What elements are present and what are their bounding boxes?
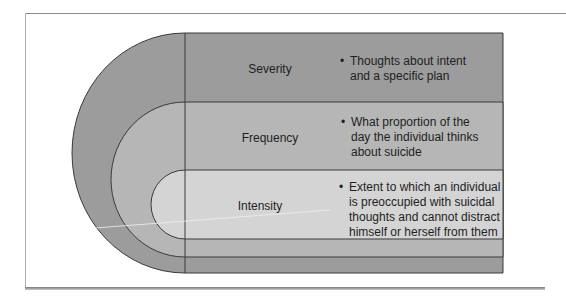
frequency-description-line: What proportion of the	[351, 115, 478, 130]
intensity-description: • Extent to which an individual is preoc…	[349, 180, 500, 240]
intensity-label: Intensity	[185, 199, 335, 213]
bullet-icon: •	[341, 115, 345, 130]
bullet-icon: •	[339, 180, 343, 195]
frequency-description: • What proportion of the day the individ…	[351, 115, 478, 160]
frequency-label: Frequency	[195, 131, 345, 145]
intensity-description-line: Extent to which an individual	[349, 180, 500, 195]
intensity-description-line: himself or herself from them	[349, 225, 500, 240]
frequency-description-line: day the individual thinks	[351, 130, 478, 145]
severity-label: Severity	[195, 62, 345, 76]
frequency-description-line: about suicide	[351, 145, 478, 160]
bullet-icon: •	[340, 54, 344, 69]
severity-description: • Thoughts about intent and a specific p…	[350, 54, 466, 84]
severity-description-line: and a specific plan	[350, 69, 466, 84]
intensity-description-line: thoughts and cannot distract	[349, 210, 500, 225]
intensity-description-line: is preoccupied with suicidal	[349, 195, 500, 210]
severity-description-line: Thoughts about intent	[350, 54, 466, 69]
